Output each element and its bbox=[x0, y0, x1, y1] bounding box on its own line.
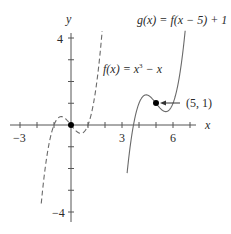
tick-label-neg3: −3 bbox=[13, 131, 26, 145]
origin-point bbox=[68, 122, 74, 128]
x-axis-label: x bbox=[204, 118, 211, 132]
tick-label-3: 3 bbox=[119, 131, 125, 145]
tick-label-neg4: −4 bbox=[52, 206, 65, 220]
y-axis-label: y bbox=[65, 12, 72, 26]
tick-label-6: 6 bbox=[170, 131, 176, 145]
point-5-1 bbox=[153, 100, 159, 106]
point-label: (5, 1) bbox=[186, 96, 212, 110]
function-graph: y x −3 3 6 4 −4 f(x) = x3 − x g(x) = f(x… bbox=[0, 0, 231, 234]
arrow-icon bbox=[160, 101, 180, 106]
g-function-label: g(x) = f(x − 5) + 1 bbox=[137, 13, 227, 27]
tick-label-4: 4 bbox=[57, 32, 63, 46]
f-curve-dashed bbox=[41, 31, 102, 203]
f-function-label: f(x) = x3 − x bbox=[103, 62, 163, 76]
